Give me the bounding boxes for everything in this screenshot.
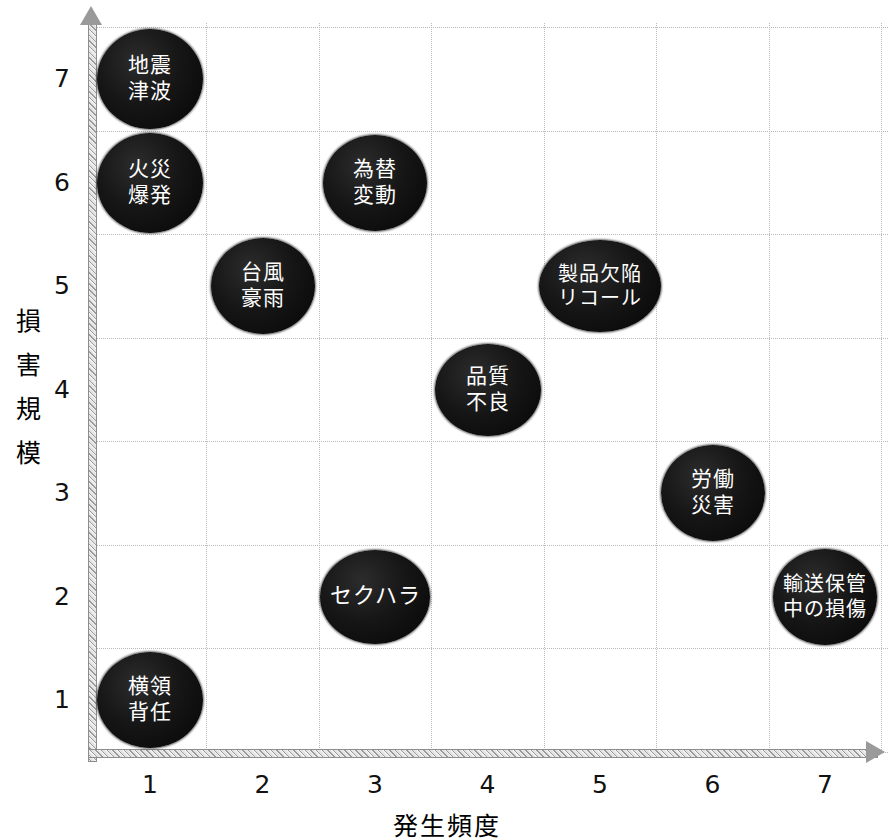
gridline-horizontal <box>92 338 888 339</box>
risk-bubble[interactable]: 製品欠陥 リコール <box>539 240 661 332</box>
y-axis-arrow-icon <box>80 6 102 25</box>
risk-bubble-label: 製品欠陥 リコール <box>556 262 644 311</box>
gridline-horizontal <box>92 648 888 649</box>
risk-bubble[interactable]: 地震 津波 <box>97 29 203 129</box>
x-axis-title: 発生頻度 <box>0 806 894 840</box>
y-tick-label: 2 <box>36 584 70 609</box>
risk-bubble-label: 為替 変動 <box>351 157 399 208</box>
y-axis-title-char: 損 <box>8 300 48 344</box>
gridline-horizontal <box>92 27 888 28</box>
x-tick-label: 1 <box>130 772 170 797</box>
risk-bubble[interactable]: 火災 爆発 <box>97 133 203 233</box>
x-tick-label: 2 <box>243 772 283 797</box>
gridline-horizontal <box>92 545 888 546</box>
x-axis-arrow-icon <box>866 741 885 763</box>
gridline-vertical <box>769 23 770 752</box>
risk-bubble[interactable]: 品質 不良 <box>435 344 541 436</box>
x-tick-label: 3 <box>355 772 395 797</box>
risk-bubble[interactable]: 台風 豪雨 <box>211 238 315 334</box>
risk-bubble[interactable]: セクハラ <box>320 550 430 644</box>
gridline-vertical <box>881 23 882 752</box>
gridline-vertical <box>656 23 657 752</box>
risk-bubble-label: 横領 背任 <box>126 674 174 725</box>
y-tick-label: 3 <box>36 480 70 505</box>
y-axis-title-char: 模 <box>8 432 48 476</box>
y-axis-title: 損害規模 <box>8 300 48 476</box>
gridline-horizontal <box>92 234 888 235</box>
gridline-vertical <box>544 23 545 752</box>
gridline-horizontal <box>92 441 888 442</box>
risk-bubble-label: 火災 爆発 <box>126 157 174 208</box>
x-tick-label: 6 <box>693 772 733 797</box>
gridline-vertical <box>206 23 207 752</box>
y-tick-label: 1 <box>36 687 70 712</box>
x-tick-label: 4 <box>468 772 508 797</box>
y-axis-title-char: 規 <box>8 388 48 432</box>
y-tick-label: 6 <box>36 170 70 195</box>
y-tick-label: 5 <box>36 273 70 298</box>
risk-bubble[interactable]: 横領 背任 <box>97 652 203 748</box>
risk-bubble[interactable]: 労働 災害 <box>661 445 765 541</box>
risk-bubble-label: セクハラ <box>328 583 423 610</box>
risk-bubble-label: 労働 災害 <box>689 467 737 518</box>
risk-bubble-label: 台風 豪雨 <box>239 260 287 311</box>
y-axis-title-char: 害 <box>8 344 48 388</box>
y-axis-line <box>88 22 97 762</box>
gridline-horizontal <box>92 131 888 132</box>
risk-bubble-label: 輸送保管 中の損傷 <box>781 572 869 621</box>
risk-bubble[interactable]: 輸送保管 中の損傷 <box>773 549 877 645</box>
risk-bubble-label: 品質 不良 <box>464 364 512 415</box>
gridline-vertical <box>319 23 320 752</box>
risk-map-chart: 1234567 1234567 地震 津波火災 爆発為替 変動台風 豪雨製品欠陥… <box>0 0 894 840</box>
x-axis-line <box>88 749 878 758</box>
y-tick-label: 7 <box>36 66 70 91</box>
risk-bubble[interactable]: 為替 変動 <box>323 135 427 231</box>
risk-bubble-label: 地震 津波 <box>126 53 174 104</box>
gridline-vertical <box>431 23 432 752</box>
x-tick-label: 5 <box>580 772 620 797</box>
x-tick-label: 7 <box>805 772 845 797</box>
